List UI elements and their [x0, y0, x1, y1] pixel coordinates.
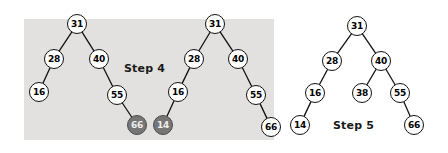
tree-node-31: 31: [347, 16, 367, 36]
tree-node-label: 55: [394, 89, 406, 98]
tree-edge: [337, 33, 352, 53]
tree-node-label: 31: [351, 22, 363, 31]
tree-node-label: 40: [375, 57, 387, 66]
tree-node-label: 31: [71, 20, 83, 29]
tree-node-31: 31: [67, 14, 87, 34]
tree-node-40: 40: [371, 51, 391, 71]
step-label-2: Step 5: [333, 119, 374, 132]
tree-node-28: 28: [322, 51, 342, 71]
tree-node-label: 28: [48, 55, 60, 64]
tree-node-55: 55: [246, 85, 266, 105]
tree-node-label: 28: [188, 55, 200, 64]
tree-edge: [304, 101, 311, 117]
tree-edge: [220, 32, 233, 52]
tree-node-66: 66: [261, 117, 281, 137]
tree-node-label: 16: [33, 88, 45, 97]
tree-node-label: 55: [111, 91, 123, 100]
tree-node-38: 38: [352, 83, 372, 103]
tree-node-label: 31: [209, 20, 221, 29]
tree-node-16: 16: [29, 82, 49, 102]
tree-edge: [199, 32, 211, 52]
tree-edge: [362, 33, 376, 53]
tree-node-label: 16: [309, 89, 321, 98]
tree-edge: [319, 69, 328, 85]
figure-canvas: 3128401655663128401655146631284016385514…: [0, 0, 448, 153]
tree-edge: [386, 69, 396, 86]
tree-node-55: 55: [390, 83, 410, 103]
tree-node-label: 66: [265, 123, 277, 132]
tree-node-31: 31: [205, 14, 225, 34]
tree-edge: [260, 103, 267, 119]
tree-edge: [367, 69, 377, 86]
tree-node-14: 14: [153, 115, 173, 135]
tree-node-label: 66: [131, 121, 143, 130]
tree-node-label: 14: [157, 121, 169, 130]
tree-node-label: 40: [93, 55, 105, 64]
tree-node-40: 40: [228, 49, 248, 69]
tree-edge: [59, 32, 72, 52]
tree-node-40: 40: [89, 49, 109, 69]
tree-edge: [404, 101, 411, 117]
tree-node-label: 66: [408, 121, 420, 130]
tree-node-16: 16: [168, 82, 188, 102]
tree-node-16: 16: [305, 83, 325, 103]
tree-edge: [167, 100, 175, 117]
tree-edge: [242, 67, 252, 87]
tree-node-label: 55: [250, 91, 262, 100]
tree-node-28: 28: [44, 49, 64, 69]
tree-node-14: 14: [290, 115, 310, 135]
tree-node-28: 28: [184, 49, 204, 69]
tree-node-66: 66: [404, 115, 424, 135]
tree-node-label: 16: [172, 88, 184, 97]
step-label-1: Step 4: [124, 62, 165, 75]
tree-node-label: 28: [326, 57, 338, 66]
tree-edge: [182, 67, 190, 84]
tree-node-label: 40: [232, 55, 244, 64]
tree-node-label: 38: [356, 89, 368, 98]
tree-node-66: 66: [127, 115, 147, 135]
tree-node-55: 55: [107, 85, 127, 105]
tree-edge: [103, 67, 113, 87]
tree-node-label: 14: [294, 121, 306, 130]
tree-edge: [82, 32, 94, 52]
tree-edge: [43, 67, 51, 84]
tree-edge: [122, 102, 132, 117]
